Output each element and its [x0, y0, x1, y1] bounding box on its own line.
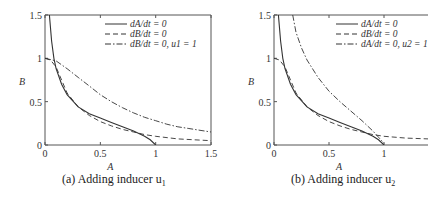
panel-a-plot: 00.511.500.511.5ABdA/dt = 0dB/dt = 0dB/d… — [19, 10, 217, 172]
chart-figure: 00.511.500.511.5ABdA/dt = 0dB/dt = 0dB/d… — [0, 0, 428, 200]
x-tick-label: 0 — [272, 148, 277, 159]
y-tick-label: 0 — [266, 140, 271, 151]
panel-a-caption-text: (a) Adding inducer u — [62, 172, 162, 186]
y-tick-label: 1 — [266, 53, 271, 64]
panel-b-caption: (b) Adding inducer u2 — [291, 172, 395, 188]
y-tick-label: 1.5 — [30, 10, 43, 21]
y-axis-label: B — [248, 76, 254, 87]
legend-entry: dA/dt = 0 — [361, 19, 398, 29]
x-tick-label: 1 — [382, 148, 387, 159]
x-tick-label: 0.5 — [323, 148, 336, 159]
x-tick-label: 0.5 — [94, 148, 107, 159]
panel-a-caption: (a) Adding inducer u1 — [62, 172, 166, 188]
series-line — [45, 58, 211, 132]
panel-b-plot: 00.5100.511.5ABdA/dt = 0dB/dt = 0dA/dt =… — [248, 10, 428, 172]
y-tick-label: 0.5 — [259, 97, 272, 108]
x-tick-label: 0 — [43, 148, 48, 159]
y-tick-label: 0 — [37, 140, 42, 151]
legend-entry: dB/dt = 0 — [361, 29, 398, 39]
x-tick-label: 1 — [153, 148, 158, 159]
legend-entry: dB/dt = 0 — [130, 29, 167, 39]
panel-b-caption-text: (b) Adding inducer u — [291, 172, 391, 186]
legend-entry: dA/dt = 0, u2 = 1 — [361, 39, 428, 49]
x-axis-label: A — [335, 161, 343, 172]
x-axis-label: A — [106, 161, 114, 172]
legend-entry: dB/dt = 0, u1 = 1 — [130, 39, 197, 49]
y-axis-label: B — [19, 76, 25, 87]
y-tick-label: 1.5 — [259, 10, 272, 21]
y-tick-label: 0.5 — [30, 97, 43, 108]
y-tick-label: 1 — [37, 53, 42, 64]
x-tick-label: 1.5 — [205, 148, 218, 159]
legend-entry: dA/dt = 0 — [130, 19, 167, 29]
panel-b-caption-sub: 2 — [391, 179, 395, 188]
panel-a-caption-sub: 1 — [162, 179, 166, 188]
